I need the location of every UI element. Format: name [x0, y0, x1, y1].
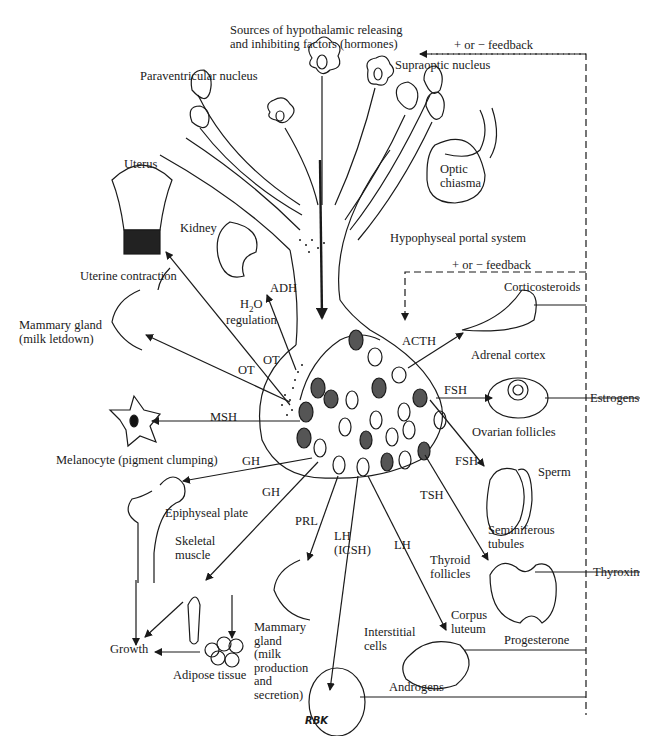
optic-chiasma-label: Optic chiasma: [440, 162, 481, 190]
sperm-label: Sperm: [538, 465, 571, 479]
mammary-letdown-shape: [112, 290, 142, 350]
lh-icsh-label: LH (ICSH): [334, 529, 371, 557]
acth-label: ACTH: [402, 334, 436, 348]
mammary-production-shape: [274, 560, 310, 620]
mammary-production-label: Mammary gland (milk production and secre…: [254, 621, 308, 702]
interstitial-cells-label: Interstitial cells: [364, 625, 415, 653]
dark-cells: [297, 330, 430, 471]
prl-label: PRL: [295, 514, 318, 528]
title-line-2: and inhibiting factors (hormones): [230, 37, 398, 51]
gh-label-1: GH: [242, 454, 260, 468]
ot-label-1: OT: [263, 353, 280, 367]
artist-signature: RBK: [305, 714, 328, 728]
feedback-mid-label: + or − feedback: [452, 258, 531, 272]
uterus-shape: [112, 165, 172, 230]
adipose-label: Adipose tissue: [173, 668, 246, 682]
ovarian-follicle-shape: [488, 378, 548, 418]
fsh-label-1: FSH: [444, 383, 467, 397]
adh-label: ADH: [270, 281, 297, 295]
portal-system-label: Hypophyseal portal system: [390, 231, 526, 245]
progesterone-label: Progesterone: [504, 633, 569, 647]
pituitary-hormone-diagram: Sources of hypothalamic releasing and in…: [0, 0, 664, 736]
ovarian-follicles-label: Ovarian follicles: [472, 425, 556, 439]
adipose-shape: [205, 637, 243, 667]
kidney-shape: [217, 222, 257, 277]
diagram-drawing: [0, 0, 664, 736]
supraoptic-label: Supraoptic nucleus: [395, 58, 490, 72]
corticosteroids-label: Corticosteroids: [504, 280, 580, 294]
regulation-label: regulation: [226, 313, 277, 327]
thyroid-follicles-label: Thyroid follicles: [430, 553, 470, 581]
epiphyseal-plate-label: Epiphyseal plate: [165, 506, 248, 520]
melanocyte-label: Melanocyte (pigment clumping): [56, 453, 218, 467]
seminiferous-tubules-label: Seminiferous tubules: [488, 523, 555, 551]
ot-label-2: OT: [238, 363, 255, 377]
pituitary-gland: [260, 239, 446, 478]
feedback-top-label: + or − feedback: [454, 38, 533, 52]
fsh-label-2: FSH: [455, 454, 478, 468]
thyroxin-label: Thyroxin: [593, 565, 640, 579]
msh-label: MSH: [210, 410, 237, 424]
femur-shape: [128, 477, 185, 583]
uterine-contraction-label: Uterine contraction: [80, 269, 177, 283]
growth-label: Growth: [110, 642, 148, 656]
paraventricular-label: Paraventricular nucleus: [140, 69, 258, 83]
lh-label: LH: [394, 538, 411, 552]
uterus-label: Uterus: [124, 157, 157, 171]
adrenal-shape: [462, 290, 536, 331]
androgens-label: Androgens: [389, 680, 444, 694]
mammary-letdown-label: Mammary gland (milk letdown): [19, 318, 102, 346]
gh-label-2: GH: [262, 485, 280, 499]
skeletal-muscle-shape: [188, 597, 200, 644]
adrenal-cortex-label: Adrenal cortex: [471, 348, 546, 362]
hypothalamic-neurons: [160, 37, 444, 345]
tsh-label: TSH: [420, 488, 444, 502]
kidney-label: Kidney: [180, 221, 217, 235]
title-line-1: Sources of hypothalamic releasing: [230, 23, 403, 37]
skeletal-muscle-label: Skeletal muscle: [175, 534, 215, 562]
corpus-luteum-label: Corpus luteum: [451, 608, 487, 636]
estrogens-label: Estrogens: [590, 391, 639, 405]
